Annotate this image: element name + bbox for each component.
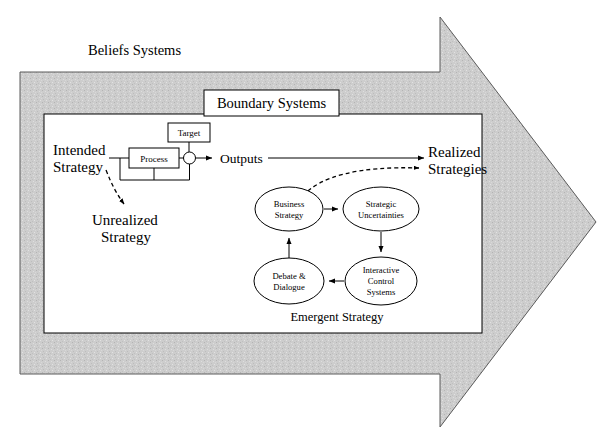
boundary-systems-label: Boundary Systems xyxy=(217,95,327,111)
cycle-node-business-strategy-line2: Strategy xyxy=(275,210,304,220)
cycle-node-interactive-control-systems-line2: Control xyxy=(368,276,395,286)
cycle-node-business-strategy xyxy=(255,187,323,231)
realized-strategies-label-line1: Realized xyxy=(428,144,481,160)
cycle-node-debate-and-dialogue-line2: Dialogue xyxy=(273,282,305,292)
intended-strategy-label-line1: Intended xyxy=(53,142,106,158)
cycle-node-business-strategy-line1: Business xyxy=(274,199,305,209)
beliefs-systems-label: Beliefs Systems xyxy=(88,42,181,58)
cycle-node-strategic-uncertainties xyxy=(343,187,419,231)
emergent-strategy-label: Emergent Strategy xyxy=(290,310,384,324)
outputs-label: Outputs xyxy=(220,151,263,166)
target-label: Target xyxy=(178,128,201,138)
levers-of-control-diagram: Beliefs Systems Boundary Systems Intende… xyxy=(0,0,611,443)
cycle-node-debate-and-dialogue xyxy=(254,258,324,304)
cycle-node-interactive-control-systems-line1: Interactive xyxy=(363,265,400,275)
unrealized-strategy-label-line1: Unrealized xyxy=(92,212,158,228)
cycle-node-strategic-uncertainties-line1: Strategic xyxy=(366,199,397,209)
comparator-node xyxy=(184,152,196,164)
diagram-canvas: Beliefs Systems Boundary Systems Intende… xyxy=(0,0,611,443)
intended-strategy-label-line2: Strategy xyxy=(53,159,103,175)
realized-strategies-label-line2: Strategies xyxy=(428,161,487,177)
cycle-node-interactive-control-systems-line3: Systems xyxy=(367,287,396,297)
cycle-node-strategic-uncertainties-line2: Uncertainties xyxy=(358,210,404,220)
unrealized-strategy-label-line2: Strategy xyxy=(101,229,151,245)
cycle-node-debate-and-dialogue-line1: Debate & xyxy=(272,271,305,281)
process-label: Process xyxy=(140,154,168,164)
